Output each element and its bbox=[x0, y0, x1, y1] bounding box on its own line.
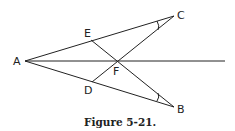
segment-AB bbox=[25, 61, 174, 107]
geometry-figure: A C B E D F Figure 5-21. bbox=[0, 0, 235, 131]
label-B: B bbox=[177, 103, 185, 116]
label-E: E bbox=[84, 27, 91, 40]
label-D: D bbox=[84, 84, 92, 97]
segment-EB bbox=[91, 40, 174, 107]
segment-AC bbox=[25, 16, 174, 61]
segment-DC bbox=[92, 16, 174, 82]
label-C: C bbox=[177, 9, 185, 22]
label-F: F bbox=[113, 65, 119, 78]
label-A: A bbox=[13, 55, 21, 68]
figure-caption: Figure 5-21. bbox=[84, 116, 156, 128]
